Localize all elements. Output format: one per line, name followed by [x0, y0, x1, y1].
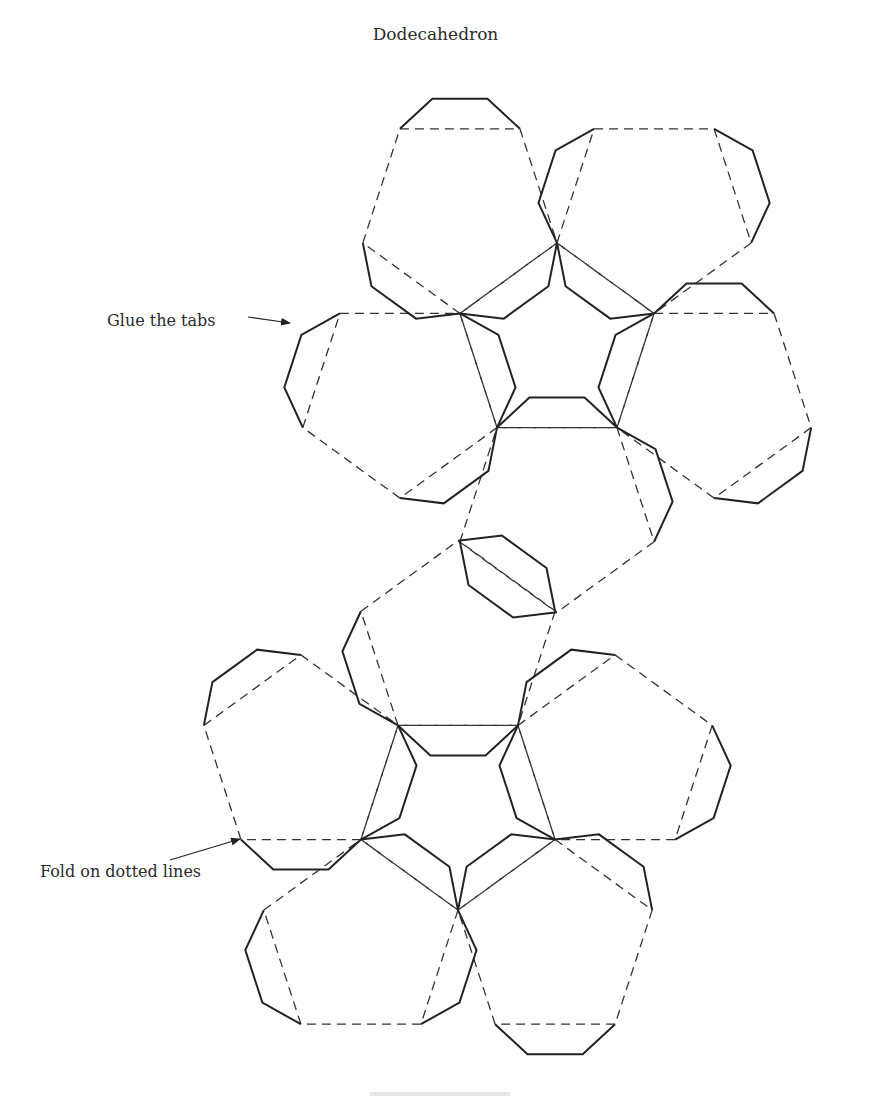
face-fold-outline — [361, 541, 555, 726]
glue-tab — [241, 840, 361, 870]
face-fold-outline — [363, 129, 557, 314]
face-fold-outline — [460, 428, 654, 613]
glue-tab — [460, 313, 516, 427]
face-fold-outline — [204, 655, 398, 840]
dodecahedron-net — [0, 0, 871, 1104]
glue-tab — [598, 313, 654, 427]
face-fold-outline — [458, 840, 652, 1025]
glue-tab — [421, 910, 477, 1024]
glue-tab — [555, 834, 652, 910]
glue-arrow-icon — [248, 317, 290, 323]
glue-tab — [654, 283, 774, 313]
glue-tab — [400, 99, 520, 129]
face-fold-outline — [518, 655, 712, 840]
glue-tab — [342, 611, 398, 725]
glue-tab — [714, 129, 770, 243]
glue-tab — [497, 398, 617, 428]
face-fold-outline — [557, 129, 751, 314]
fold-lines — [204, 129, 811, 1024]
face-fold-outline — [264, 840, 458, 1025]
glue-tab — [361, 725, 417, 839]
figure-caption-cutoff — [370, 1092, 510, 1096]
glue-tab — [538, 129, 594, 243]
glue-tab — [398, 725, 518, 755]
glue-tab — [617, 428, 673, 542]
glue-tab — [363, 243, 460, 319]
glue-tab — [495, 1024, 615, 1054]
face-fold-outline — [303, 313, 497, 498]
face-fold-outline — [460, 243, 654, 428]
callout-arrows — [170, 317, 290, 860]
face-fold-outline — [617, 313, 811, 498]
glue-tab — [245, 910, 301, 1024]
fold-arrow-icon — [170, 839, 240, 860]
glue-tab — [499, 725, 555, 839]
face-fold-outline — [361, 725, 555, 910]
glue-tab — [284, 313, 340, 427]
glue-tab — [675, 725, 731, 839]
